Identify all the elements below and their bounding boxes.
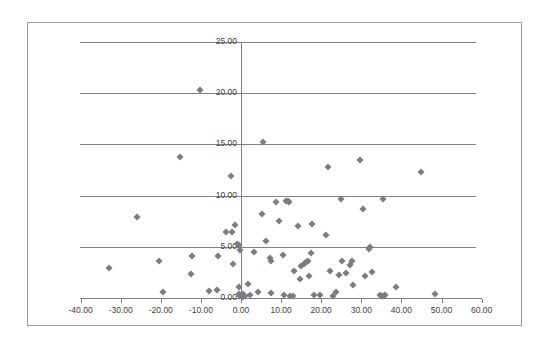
data-point [272,198,279,205]
y-tick-mark [238,93,242,94]
data-point [308,249,315,256]
gridline-y [80,93,476,94]
data-point [228,229,235,236]
x-tick-mark [321,299,322,303]
data-point [245,280,252,287]
gridline-y [80,144,476,145]
data-point [227,173,234,180]
data-point [306,273,313,280]
y-tick-label: 5.00 [197,241,237,251]
data-point [291,268,298,275]
x-tick-mark [81,299,82,303]
y-tick-mark [238,144,242,145]
plot-area: -40.00-30.00-20.00-10.000.0010.0020.0030… [0,0,549,347]
data-point [280,251,287,258]
x-tick-mark [121,299,122,303]
data-point [214,252,221,259]
gridline-y [80,247,476,248]
y-tick-label: 10.00 [197,190,237,200]
gridline-y [80,196,476,197]
y-tick-mark [238,196,242,197]
data-point [276,218,283,225]
y-tick-mark [238,42,242,43]
data-point [362,273,369,280]
data-point [339,258,346,265]
data-point [155,258,162,265]
data-point [333,288,340,295]
data-point [105,265,112,272]
x-tick-mark [361,299,362,303]
data-point [188,252,195,259]
data-point [368,269,375,276]
data-point [326,268,333,275]
data-point [432,290,439,297]
data-point [259,210,266,217]
data-point [343,270,350,277]
data-point [308,221,315,228]
data-point [393,283,400,290]
y-axis-line [241,42,242,298]
data-point [251,248,258,255]
data-point [229,261,236,268]
data-point [357,156,364,163]
scatter-chart: -40.00-30.00-20.00-10.000.0010.0020.0030… [0,0,549,347]
data-point [324,163,331,170]
x-tick-mark [281,299,282,303]
data-point [323,231,330,238]
data-point [263,237,270,244]
data-point [360,205,367,212]
data-point [418,169,425,176]
x-tick-mark [482,299,483,303]
data-point [268,289,275,296]
data-point [255,288,262,295]
y-tick-label: 15.00 [197,138,237,148]
data-point [294,223,301,230]
data-point [177,153,184,160]
data-point [133,214,140,221]
gridline-y [80,42,476,43]
data-point [187,271,194,278]
y-tick-label: 25.00 [197,36,237,46]
data-point [297,275,304,282]
data-point [159,288,166,295]
x-tick-label: 60.00 [457,305,507,315]
x-tick-mark [401,299,402,303]
x-tick-mark [161,299,162,303]
data-point [350,281,357,288]
x-tick-mark [442,299,443,303]
